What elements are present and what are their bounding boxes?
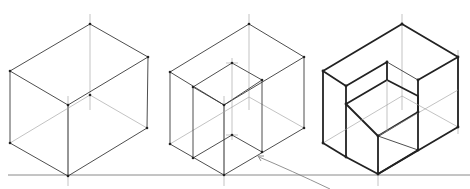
cube-2 [169, 14, 306, 186]
isometric-drawing [0, 0, 470, 189]
cube-1 [9, 14, 150, 186]
cube-3 [322, 14, 460, 186]
diagram-svg [0, 0, 470, 189]
annotation-arrow [258, 156, 330, 189]
